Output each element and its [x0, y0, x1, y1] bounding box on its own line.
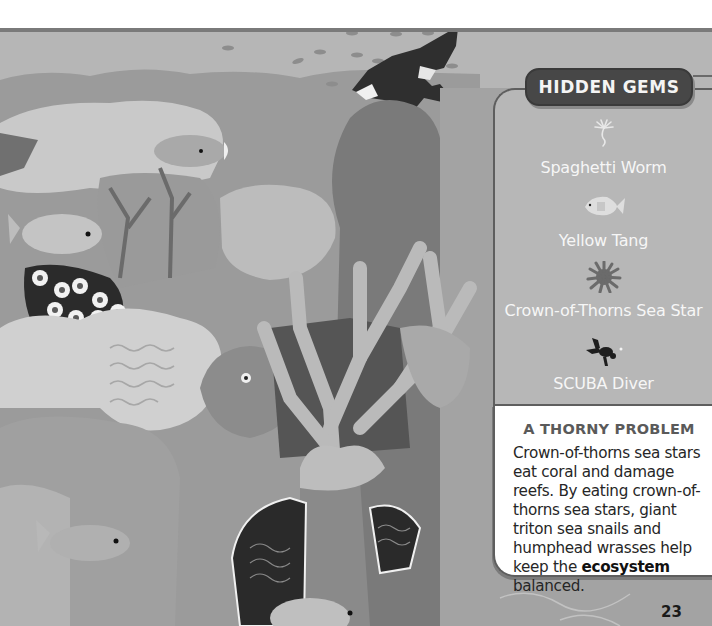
fact-box-body: Crown-of-thorns sea stars eat coral and …: [513, 444, 712, 596]
fact-text: Crown-of-thorns sea stars eat coral and …: [513, 444, 701, 576]
gem-item-scuba-diver: SCUBA Diver: [495, 336, 712, 393]
scuba-diver-icon: [584, 336, 624, 368]
sea-star-icon: [586, 261, 622, 293]
gem-label: Yellow Tang: [495, 231, 712, 250]
gem-item-crown-of-thorns: Crown-of-Thorns Sea Star: [495, 261, 712, 320]
yellow-tang-icon: [581, 193, 627, 219]
gem-label: SCUBA Diver: [495, 374, 712, 393]
scene-top-border: [0, 28, 712, 32]
panel-tab-rule: [693, 75, 712, 77]
gem-item-yellow-tang: Yellow Tang: [495, 193, 712, 250]
hidden-gems-title: HIDDEN GEMS: [539, 77, 680, 97]
spaghetti-worm-icon: [589, 118, 619, 148]
gem-item-spaghetti-worm: Spaghetti Worm: [495, 118, 712, 177]
hidden-gems-header: HIDDEN GEMS: [525, 68, 693, 106]
book-page: HIDDEN GEMS Spaghetti Worm Yellow Tang: [0, 0, 712, 626]
fact-box-title: A THORNY PROBLEM: [509, 421, 709, 437]
top-margin: [0, 0, 712, 28]
fact-text-end: balanced.: [513, 577, 585, 595]
gem-label: Crown-of-Thorns Sea Star: [495, 301, 712, 320]
page-number: 23: [661, 603, 682, 621]
fact-keyword: ecosystem: [581, 558, 669, 576]
gem-label: Spaghetti Worm: [495, 158, 712, 177]
